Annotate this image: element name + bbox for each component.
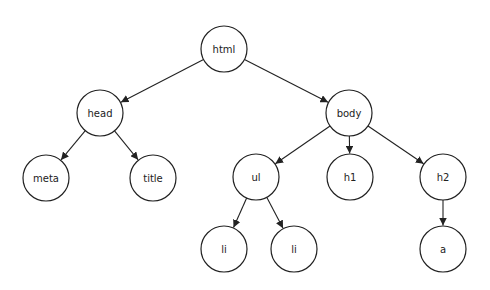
node-meta: meta (23, 155, 69, 201)
node-li1: li (201, 226, 247, 272)
node-label: body (337, 108, 362, 119)
node-html: html (201, 26, 247, 72)
node-ul: ul (233, 154, 279, 200)
node-label: li (291, 244, 297, 255)
edge-body-to-h2 (368, 126, 424, 164)
edge-html-to-head (121, 60, 204, 103)
node-label: ul (251, 172, 260, 183)
edge-html-to-body (244, 59, 328, 102)
node-head: head (77, 90, 123, 136)
edge-body-to-ul (275, 126, 330, 164)
node-body: body (326, 90, 372, 136)
node-label: title (143, 173, 163, 184)
node-label: a (440, 244, 446, 255)
node-label: h2 (437, 172, 450, 183)
node-label: meta (33, 173, 59, 184)
dom-tree-diagram: htmlheadbodymetatitleulh1h2lilia (0, 0, 490, 290)
node-a: a (420, 226, 466, 272)
node-label: li (221, 244, 227, 255)
node-li2: li (271, 226, 317, 272)
edge-head-to-title (115, 131, 139, 160)
edges (61, 59, 443, 228)
edge-ul-to-li1 (234, 198, 247, 228)
node-label: h1 (344, 172, 357, 183)
edge-ul-to-li2 (267, 197, 283, 228)
node-title: title (130, 155, 176, 201)
nodes: htmlheadbodymetatitleulh1h2lilia (23, 26, 466, 272)
node-h2: h2 (420, 154, 466, 200)
node-label: head (88, 108, 113, 119)
node-label: html (213, 44, 236, 55)
node-h1: h1 (327, 154, 373, 200)
edge-head-to-meta (61, 131, 85, 160)
